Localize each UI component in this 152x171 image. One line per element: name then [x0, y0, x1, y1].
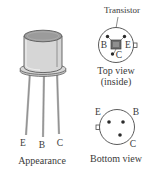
bottom-view-diagram: E B C Bottom view [90, 107, 143, 164]
transistor-leads [26, 72, 59, 137]
bottom-view-caption: Bottom view [90, 153, 143, 164]
bottom-view-pad-c [118, 133, 122, 137]
top-view-caption-line2: (inside) [101, 76, 132, 88]
appearance-caption: Appearance [18, 155, 66, 166]
top-view-pin-label-e: E [125, 40, 131, 50]
bottom-view-pin-label-c: C [130, 139, 136, 149]
top-view-pad-b [106, 35, 109, 38]
lead-emitter-edge [26, 72, 30, 135]
transistor-diagram: E B C Appearance Transistor [0, 0, 152, 171]
transistor-die-inner [113, 42, 119, 47]
bottom-view-pin-label-e: E [95, 107, 101, 117]
bottom-view-pin-label-b: B [133, 107, 139, 117]
transistor-figure-page: E B C Appearance Transistor [0, 0, 152, 171]
top-view-pin-label-c: C [116, 50, 122, 60]
appearance-pin-label-c: C [57, 138, 63, 148]
callout-label-transistor: Transistor [104, 5, 140, 15]
transistor-can-top [24, 30, 62, 42]
top-view-pad-c [111, 52, 114, 55]
appearance-pin-label-b: B [39, 140, 45, 150]
bottom-view-pad-b [121, 120, 125, 124]
top-view-pad-e [123, 35, 126, 38]
top-view-diagram: B E C Top view (inside) [97, 28, 137, 89]
transistor-appearance-drawing: E B C Appearance [18, 30, 66, 166]
top-view-pin-label-b: B [101, 40, 107, 50]
bottom-view-pad-e [107, 120, 111, 124]
appearance-pin-label-e: E [20, 138, 26, 148]
top-view-caption-line1: Top view [97, 65, 135, 76]
